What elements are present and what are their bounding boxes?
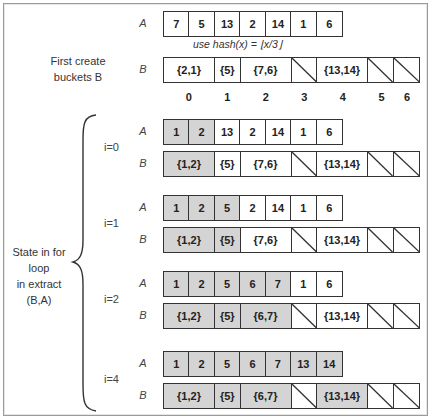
- empty-bucket: [394, 58, 419, 82]
- row-label-a: A: [137, 201, 149, 213]
- bucket-cell: {5}: [215, 304, 241, 328]
- empty-bucket: [394, 228, 419, 252]
- array-a-cell: 2: [240, 12, 265, 36]
- array-a: 12521416: [163, 195, 343, 221]
- buckets-b: {2,1}{5}{7,6}{13,14}: [163, 57, 420, 83]
- array-a-cell: 2: [240, 196, 265, 220]
- array-a-cell: 7: [266, 352, 291, 376]
- bucket-cell: {6,7}: [241, 384, 292, 408]
- array-a-cell: 6: [317, 120, 342, 144]
- row-label-b: B: [137, 389, 149, 401]
- array-a-cell: 2: [189, 120, 214, 144]
- array-a-cell: 13: [215, 120, 240, 144]
- empty-bucket: [292, 58, 318, 82]
- first-create-label: First create buckets B: [40, 53, 116, 85]
- array-a-cell: 14: [266, 120, 291, 144]
- array-a-cell: 14: [266, 196, 291, 220]
- row-label-a: A: [137, 17, 149, 29]
- row-label-b: B: [137, 309, 149, 321]
- bucket-cell: {7,6}: [241, 152, 292, 176]
- array-a-cell: 2: [240, 120, 265, 144]
- iteration-label: i=2: [104, 293, 119, 305]
- bucket-cell: {5}: [215, 228, 241, 252]
- array-a: 121321416: [163, 119, 343, 145]
- bucket-cell: {1,2}: [164, 152, 215, 176]
- array-a-cell: 2: [189, 196, 214, 220]
- row-label-a: A: [137, 357, 149, 369]
- empty-bucket: [394, 304, 419, 328]
- row-label-b: B: [137, 233, 149, 245]
- row-label-b: B: [137, 63, 149, 75]
- array-a-cell: 13: [291, 352, 316, 376]
- bucket-cell: {13,14}: [317, 228, 368, 252]
- iteration-label: i=0: [104, 141, 119, 153]
- array-a-cell: 7: [164, 12, 189, 36]
- bucket-cell: {1,2}: [164, 384, 215, 408]
- empty-bucket: [368, 384, 394, 408]
- array-a-cell: 2: [189, 352, 214, 376]
- bucket-cell: {6,7}: [241, 304, 292, 328]
- brace-icon: [70, 112, 100, 414]
- bucket-index: 1: [214, 91, 240, 103]
- empty-bucket: [292, 152, 318, 176]
- bucket-index: 3: [292, 91, 318, 103]
- bucket-cell: {1,2}: [164, 304, 215, 328]
- row-label-a: A: [137, 125, 149, 137]
- hash-note: use hash(x) = ⌊x/3⌋: [193, 38, 282, 50]
- bucket-cell: {13,14}: [317, 58, 368, 82]
- array-a-cell: 5: [215, 272, 240, 296]
- array-a-cell: 1: [291, 12, 316, 36]
- bucket-cell: {5}: [215, 384, 241, 408]
- array-a-cell: 1: [291, 120, 316, 144]
- buckets-b: {1,2}{5}{7,6}{13,14}: [163, 227, 420, 253]
- buckets-b: {1,2}{5}{6,7}{13,14}: [163, 383, 420, 409]
- array-a-cell: 5: [215, 196, 240, 220]
- array-a: 1256716: [163, 271, 343, 297]
- iteration-label: i=4: [104, 373, 119, 385]
- row-label-a: A: [137, 277, 149, 289]
- array-a-cell: 6: [317, 272, 342, 296]
- array-a-cell: 1: [291, 196, 316, 220]
- array-a-cell: 2: [189, 272, 214, 296]
- bucket-index: 4: [317, 91, 368, 103]
- empty-bucket: [394, 384, 419, 408]
- empty-bucket: [368, 58, 394, 82]
- state-label: State in for loop in extract (B,A): [6, 244, 72, 308]
- array-a: 751321416: [163, 11, 343, 37]
- array-a-cell: 1: [164, 352, 189, 376]
- bucket-cell: {13,14}: [317, 384, 368, 408]
- row-label-b: B: [137, 157, 149, 169]
- array-a-cell: 7: [266, 272, 291, 296]
- bucket-cell: {7,6}: [241, 58, 292, 82]
- array-a-cell: 14: [266, 12, 291, 36]
- bucket-index: 5: [369, 91, 395, 103]
- array-a-cell: 1: [164, 196, 189, 220]
- array-a-cell: 6: [240, 352, 265, 376]
- iteration-label: i=1: [104, 217, 119, 229]
- bucket-cell: {7,6}: [241, 228, 292, 252]
- bucket-cell: {1,2}: [164, 228, 215, 252]
- bucket-index: 0: [163, 91, 214, 103]
- array-a-cell: 5: [215, 352, 240, 376]
- bucket-index: 2: [240, 91, 291, 103]
- array-a: 125671314: [163, 351, 343, 377]
- array-a-cell: 1: [291, 272, 316, 296]
- buckets-b: {1,2}{5}{6,7}{13,14}: [163, 303, 420, 329]
- bucket-cell: {13,14}: [317, 304, 368, 328]
- empty-bucket: [368, 152, 394, 176]
- bucket-cell: {13,14}: [317, 152, 368, 176]
- bucket-cell: {2,1}: [164, 58, 215, 82]
- array-a-cell: 13: [215, 12, 240, 36]
- bucket-cell: {5}: [215, 58, 241, 82]
- bucket-cell: {5}: [215, 152, 241, 176]
- array-a-cell: 6: [240, 272, 265, 296]
- empty-bucket: [394, 152, 419, 176]
- empty-bucket: [292, 304, 318, 328]
- array-a-cell: 14: [317, 352, 342, 376]
- array-a-cell: 1: [164, 120, 189, 144]
- buckets-b: {1,2}{5}{7,6}{13,14}: [163, 151, 420, 177]
- array-a-cell: 1: [164, 272, 189, 296]
- empty-bucket: [292, 228, 318, 252]
- empty-bucket: [368, 228, 394, 252]
- bucket-index: 6: [394, 91, 420, 103]
